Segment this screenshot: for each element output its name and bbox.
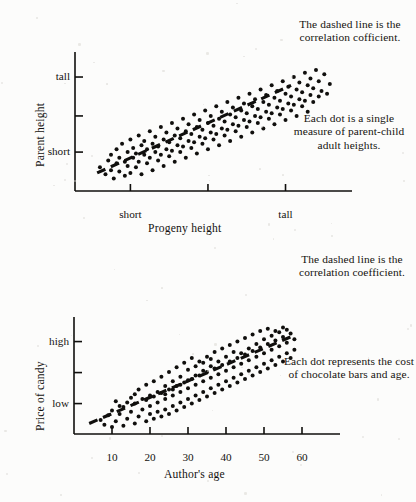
y-tick-label: tall [56,70,70,82]
scan-speck [206,52,209,55]
scan-speck [162,70,164,72]
y-axis-title-parent-height: Parent height [34,103,47,167]
scan-speck [398,268,399,269]
scan-speck [343,272,345,274]
y-tick-label: low [52,397,69,409]
figure-page: Parent height Progeny height The dashed … [0,0,416,502]
x-axis-title-progeny-height: Progeny height [148,222,221,235]
scatter-points [99,326,297,429]
scan-speck [161,287,163,289]
note-dot-meaning-top: Each dot is a single measure of parent-c… [286,112,412,152]
scan-speck [268,223,270,225]
scan-speck [368,357,369,358]
x-tick-label: tall [256,208,316,220]
scan-speck [403,180,405,182]
scan-speck [93,62,94,63]
scan-speck [381,494,382,495]
note-correlation-top: The dashed line is the correlation coffi… [288,18,412,45]
scan-speck [78,43,80,45]
scan-speck [53,185,54,186]
scan-speck [244,492,246,494]
scan-speck [331,235,332,236]
x-tick-label: 60 [272,451,332,463]
correlation-dashed-line [89,337,290,424]
scan-speck [91,457,93,459]
scan-speck [74,180,76,182]
x-tick-label: short [100,208,160,220]
scan-speck [377,398,380,401]
scan-speck [109,437,112,440]
scan-speck [282,174,284,176]
scan-speck [192,353,194,355]
x-axis-title-authors-age: Author's age [164,468,225,481]
y-tick-label: high [49,335,69,347]
figure-parent-progeny-height: Parent height Progeny height The dashed … [0,0,416,251]
scan-speck [255,48,257,50]
scan-speck [154,154,155,155]
scan-speck [261,126,263,128]
scan-speck [236,3,237,4]
note-dot-meaning-bottom: Each dot represents the cost of chocolat… [284,355,414,382]
figure-candy-price-author-age: Price of candy Author's age The dashed l… [0,251,416,502]
scan-speck [207,370,208,371]
scan-speck [214,247,216,249]
scan-speck [294,229,296,231]
scan-speck [398,438,400,440]
scan-speck [207,480,209,482]
note-correlation-bottom: The dashed line is the correlation coeff… [290,253,414,280]
scan-speck [4,430,6,432]
scan-speck [208,175,210,177]
scan-speck [91,155,93,157]
scan-speck [36,17,38,19]
y-axis-title-price-of-candy: Price of candy [34,361,47,431]
scan-speck [273,238,274,239]
scan-speck [292,451,294,453]
scan-speck [64,179,66,181]
scan-speck [83,217,85,219]
scan-speck [179,334,180,335]
scan-speck [241,367,242,368]
scan-speck [60,494,62,496]
scan-speck [291,76,293,78]
y-tick-label: short [48,145,70,157]
scan-speck [203,104,204,105]
scan-speck [398,359,400,361]
scan-speck [106,83,107,84]
scan-speck [359,123,360,124]
scan-speck [214,343,217,346]
